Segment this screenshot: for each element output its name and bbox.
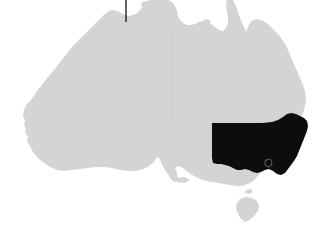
region-tasmania xyxy=(236,197,259,222)
locator-map: Australia New South Wales xyxy=(0,0,320,248)
map-canvas xyxy=(0,0,320,248)
region-kangaroo-island xyxy=(176,177,190,183)
region-tasmania-islands xyxy=(245,189,253,194)
